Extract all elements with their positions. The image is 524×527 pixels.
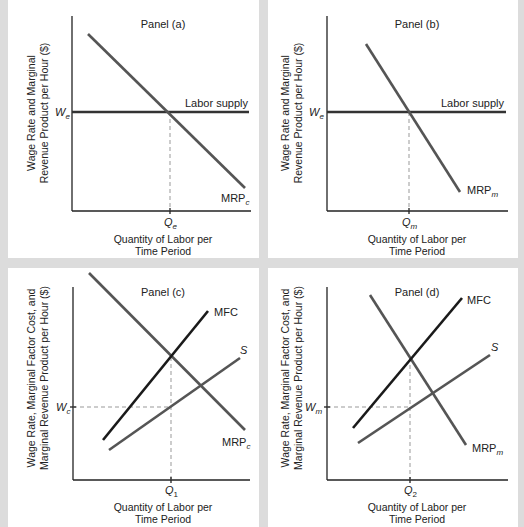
panel-d-ylabel-line2: Marginal Revenue Product per Hour ($) bbox=[292, 286, 304, 470]
panel-d-title: Panel (d) bbox=[395, 286, 440, 298]
panel-c-wage-label: Wc bbox=[56, 401, 70, 416]
panel-b-xlabel-line1: Quantity of Labor per bbox=[368, 233, 467, 245]
panel-b-wage-label: We bbox=[309, 106, 324, 121]
panel-d-mfc-label: MFC bbox=[467, 294, 491, 306]
panel-d-xlabel-line1: Quantity of Labor per bbox=[368, 501, 467, 513]
panel-c-supply-label: S bbox=[240, 344, 248, 356]
panel-b-quantity-label: Qm bbox=[402, 216, 418, 231]
panel-c-mrp-label: MRPc bbox=[222, 436, 250, 451]
panel-d-mrp-label: MRPm bbox=[472, 442, 503, 457]
panel-b-mrp-label: MRPm bbox=[467, 184, 498, 199]
panel-a: Panel (a) Wage Rate and Marginal Revenue… bbox=[25, 16, 251, 257]
panel-c-quantity-label: Q1 bbox=[165, 484, 179, 499]
panel-a-title: Panel (a) bbox=[141, 18, 186, 30]
panel-b-labor-supply-label: Labor supply bbox=[441, 97, 504, 109]
panel-c-ylabel-line2: Marginal Revenue Product per Hour ($) bbox=[38, 286, 50, 470]
panel-a-wage-label: We bbox=[55, 106, 70, 121]
panel-b-mrp-curve bbox=[366, 44, 460, 192]
panel-a-ylabel-line1: Wage Rate and Marginal bbox=[25, 55, 37, 171]
panel-d-wage-label: Wm bbox=[305, 401, 322, 416]
panel-d-quantity-label: Q2 bbox=[404, 484, 418, 499]
panel-b-ylabel-line2: Revenue Product per Hour ($) bbox=[292, 43, 304, 184]
panel-a-xlabel-line1: Quantity of Labor per bbox=[114, 233, 213, 245]
panel-b-title: Panel (b) bbox=[395, 18, 440, 30]
panel-b: Panel (b) Wage Rate and Marginal Revenue… bbox=[279, 16, 508, 257]
panel-c-xlabel-line2: Time Period bbox=[135, 513, 191, 525]
panel-c-mfc-label: MFC bbox=[214, 306, 238, 318]
panel-c: Panel (c) Wage Rate, Marginal Factor Cos… bbox=[25, 273, 250, 525]
panel-a-xlabel-line2: Time Period bbox=[135, 245, 191, 257]
panel-b-ylabel-line1: Wage Rate and Marginal bbox=[279, 55, 291, 171]
panel-c-ylabel-line1: Wage Rate, Marginal Factor Cost, and bbox=[25, 288, 37, 467]
panel-c-title: Panel (c) bbox=[141, 286, 185, 298]
panel-d-ylabel-line1: Wage Rate, Marginal Factor Cost, and bbox=[279, 288, 291, 467]
chart-canvas: Panel (a) Wage Rate and Marginal Revenue… bbox=[0, 0, 524, 527]
panel-d-mrp-curve bbox=[370, 295, 466, 445]
panel-c-xlabel-line1: Quantity of Labor per bbox=[114, 501, 213, 513]
panel-d: Panel (d) Wage Rate, Marginal Factor Cos… bbox=[279, 286, 508, 525]
panel-a-labor-supply-label: Labor supply bbox=[185, 97, 248, 109]
panel-d-supply-label: S bbox=[491, 341, 499, 353]
panel-a-quantity-label: Qe bbox=[164, 216, 178, 231]
panel-a-mrp-label: MRPc bbox=[221, 192, 249, 207]
panel-d-xlabel-line2: Time Period bbox=[389, 513, 445, 525]
panel-a-ylabel-line2: Revenue Product per Hour ($) bbox=[38, 43, 50, 184]
panel-b-xlabel-line2: Time Period bbox=[389, 245, 445, 257]
